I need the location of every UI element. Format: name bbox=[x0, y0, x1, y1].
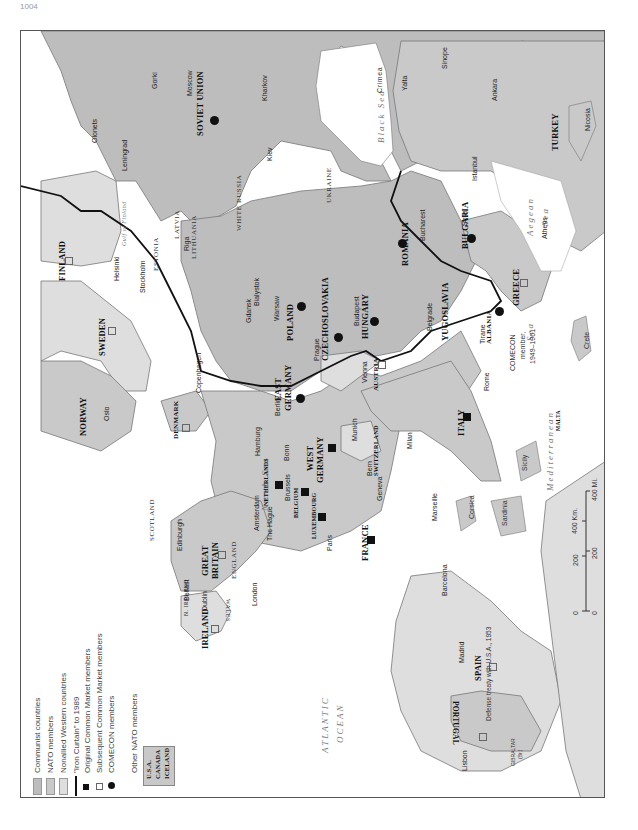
common-market-open-square-icon bbox=[108, 327, 116, 335]
country-soviet-union: SOVIET UNION bbox=[196, 71, 205, 136]
country-malta: MALTA bbox=[556, 410, 562, 431]
comecon-circle-icon bbox=[495, 307, 504, 316]
city-budapest: Budapest bbox=[353, 296, 360, 326]
common-market-filled-square-icon bbox=[367, 536, 375, 544]
scale-km-tick-200: 200 bbox=[572, 554, 579, 566]
map-frame: Black Sea North Sea ATLANTIC OCEAN Medit… bbox=[20, 30, 605, 798]
sea-label-gulf-finland: Gulf of Finland bbox=[121, 201, 127, 246]
city-athens: Athens bbox=[541, 217, 548, 239]
land-finland bbox=[41, 171, 121, 266]
city-geneva: Geneva bbox=[376, 476, 383, 501]
country-spain: SPAIN bbox=[474, 655, 483, 681]
legend-filled-square-icon bbox=[83, 784, 89, 790]
country-czechoslovakia: CZECHOSLOVAKIA bbox=[321, 277, 330, 361]
legend-nato-iceland: ICELAND bbox=[164, 748, 171, 779]
city-kharkov: Kharkov bbox=[261, 75, 268, 101]
scale-km-tick-0: 0 bbox=[572, 611, 579, 615]
city-bialystok: Bialystok bbox=[253, 278, 260, 306]
city-tirane: Tirane bbox=[479, 324, 486, 344]
country-great-britain: GREAT bbox=[201, 545, 210, 576]
city-yalta: Yalta bbox=[401, 76, 408, 91]
city-leningrad: Leningrad bbox=[121, 140, 128, 171]
legend-label-original-cm: Original Common Market members bbox=[84, 649, 92, 773]
scale-mi-label: 400 Mi. bbox=[591, 478, 598, 501]
city-london: London bbox=[251, 583, 258, 606]
region-estonia: ESTONIA bbox=[153, 237, 160, 271]
region-ukraine: UKRAINE bbox=[326, 167, 333, 203]
legend-swatch-communist bbox=[33, 778, 42, 795]
legend-label-communist: Communist countries bbox=[34, 698, 42, 773]
city-prague: Prague bbox=[313, 338, 320, 361]
country-portugal: PORTUGAL bbox=[452, 701, 460, 745]
legend-label-comecon: COMECON members bbox=[108, 696, 116, 773]
country-belgium: BELGIUM bbox=[293, 488, 299, 518]
comecon-circle-icon bbox=[334, 333, 343, 342]
city-sinope: Sinope bbox=[441, 47, 448, 69]
comecon-circle-icon bbox=[296, 394, 305, 403]
city-barcelona: Barcelona bbox=[441, 564, 448, 596]
city-belgrade: Belgrade bbox=[426, 303, 433, 331]
city-olonets: Olonets bbox=[91, 119, 98, 143]
country-greece: GREECE bbox=[512, 269, 521, 306]
common-market-open-square-icon bbox=[520, 279, 528, 287]
legend-other-nato-title: Other NATO members bbox=[131, 694, 139, 773]
country-luxembourg: LUXEMBOURG bbox=[311, 493, 317, 539]
city-vienna: Vienna bbox=[361, 361, 368, 383]
city-lisbon: Lisbon bbox=[461, 750, 468, 771]
sea-label-atlantic: ATLANTIC bbox=[321, 696, 330, 753]
legend-label-iron-curtain: "Iron Curtain" to 1989 bbox=[73, 697, 81, 773]
comecon-circle-icon bbox=[210, 116, 219, 125]
country-sweden: SWEDEN bbox=[98, 318, 107, 356]
city-madrid: Madrid bbox=[458, 642, 465, 663]
city-warsaw: Warsaw bbox=[273, 296, 280, 321]
common-market-open-square-icon bbox=[218, 551, 226, 559]
region-gibraltar: GIBRALTAR bbox=[511, 738, 516, 766]
city-berlin: Berlin bbox=[274, 398, 281, 416]
region-gibraltar-note: (Br.) bbox=[518, 750, 523, 759]
city-belfast: Belfast bbox=[183, 580, 190, 601]
city-gorki: Gorki bbox=[151, 72, 158, 89]
note-comecon-3: 1949–1961 bbox=[529, 329, 536, 364]
scale-mi-tick-200: 200 bbox=[591, 547, 598, 559]
city-sofia: Sofia bbox=[461, 210, 468, 226]
legend-open-square-icon bbox=[96, 783, 103, 790]
country-west-germany: WEST bbox=[306, 446, 315, 471]
city-bern: Bern bbox=[366, 461, 373, 476]
city-ankara: Ankara bbox=[491, 79, 498, 101]
country-ireland: IRELAND bbox=[201, 608, 210, 649]
legend-label-nonallied: Nonallied Western countries bbox=[60, 673, 68, 773]
comecon-circle-icon bbox=[467, 234, 476, 243]
note-spain-treaty: Defense treaty with U.S.A., 1953 bbox=[486, 627, 493, 721]
common-market-filled-square-icon bbox=[318, 513, 326, 521]
region-corsica: Corsica bbox=[468, 495, 475, 519]
region-sardinia: Sardinia bbox=[501, 500, 508, 526]
legend-swatch-nato bbox=[46, 778, 55, 795]
region-wales: WALES bbox=[225, 599, 231, 622]
city-oslo: Oslo bbox=[103, 407, 110, 421]
legend-filled-circle-icon bbox=[108, 782, 115, 789]
sea-label-black: Black Sea bbox=[377, 89, 386, 143]
country-hungary: HUNGARY bbox=[361, 294, 370, 339]
city-istanbul: Istanbul bbox=[471, 156, 478, 181]
page-number: 1004 bbox=[20, 2, 38, 11]
common-market-open-square-icon bbox=[211, 625, 219, 633]
note-comecon-1: COMECON bbox=[509, 334, 516, 371]
city-copenhagen: Copenhagen bbox=[195, 353, 202, 393]
city-kiev: Kiev bbox=[266, 147, 273, 161]
legend-label-subsequent-cm: Subsequent Common Market members bbox=[96, 633, 104, 773]
region-crimea: Crimea bbox=[376, 67, 383, 93]
country-yugoslavia: YUGOSLAVIA bbox=[441, 282, 450, 341]
country-norway: NORWAY bbox=[79, 397, 88, 436]
common-market-open-square-icon bbox=[479, 733, 487, 741]
common-market-filled-square-icon bbox=[463, 413, 471, 421]
sea-label-mediterranean: Mediterranean bbox=[546, 411, 555, 491]
region-lithuania: LITHUANIA bbox=[191, 215, 198, 259]
legend-label-nato: NATO members bbox=[47, 716, 55, 773]
city-marseille: Marseille bbox=[431, 493, 438, 521]
region-latvia: LATVIA bbox=[174, 210, 181, 239]
city-amsterdam: Amsterdam bbox=[253, 495, 260, 531]
note-comecon-2: member, bbox=[519, 332, 526, 359]
region-sicily: Sicily bbox=[521, 455, 528, 471]
common-market-filled-square-icon bbox=[275, 481, 283, 489]
comecon-circle-icon bbox=[297, 302, 306, 311]
